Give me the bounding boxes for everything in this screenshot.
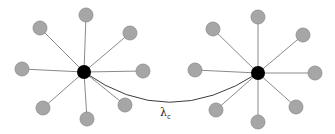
right-star-hub-node	[251, 66, 265, 80]
left-star-edge	[84, 33, 130, 72]
lambda-subscript: c	[167, 113, 171, 121]
hub-nodes	[77, 65, 265, 80]
link-label-lambda-c: λc	[160, 106, 171, 121]
left-star-leaf-node	[123, 26, 137, 40]
left-star-leaf-node	[118, 98, 132, 112]
right-star-leaf-node	[188, 63, 202, 77]
left-star-hub-node	[77, 65, 91, 79]
right-star-leaf-node	[251, 10, 265, 24]
right-star-leaf-node	[209, 103, 223, 117]
inter-hub-link-curve	[84, 72, 258, 102]
right-star-leaf-node	[251, 115, 265, 129]
right-star-leaf-node	[296, 28, 310, 42]
left-star-edge	[43, 72, 84, 108]
right-star-edge	[213, 29, 258, 73]
right-star-edge	[195, 70, 258, 73]
right-star-leaf-node	[308, 66, 322, 80]
leaf-nodes	[15, 8, 322, 129]
left-star-leaf-node	[33, 21, 47, 35]
left-star-leaf-node	[79, 8, 93, 22]
left-star-edge	[84, 15, 86, 72]
left-star-edge	[40, 28, 84, 72]
left-star-leaf-node	[80, 112, 94, 126]
right-star-leaf-node	[289, 100, 303, 114]
left-star-leaf-node	[15, 62, 29, 76]
right-star-edge	[258, 73, 296, 107]
two-star-network-diagram: λc	[0, 0, 335, 134]
right-star-edge	[258, 35, 303, 73]
lambda-symbol: λ	[160, 106, 167, 119]
left-star-edge	[22, 69, 84, 72]
star-edges	[22, 15, 315, 122]
left-star-edge	[84, 72, 125, 105]
left-star-edge	[84, 71, 143, 72]
left-star-leaf-node	[36, 101, 50, 115]
right-star-leaf-node	[206, 22, 220, 36]
left-star-leaf-node	[136, 64, 150, 78]
